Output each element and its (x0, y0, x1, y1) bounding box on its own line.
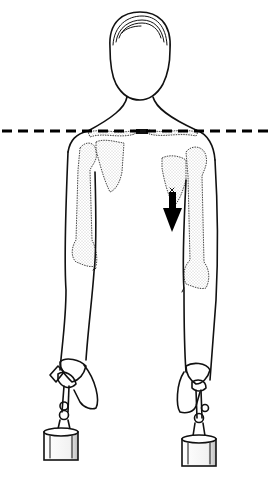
right-weight-assembly (182, 363, 216, 466)
left-shoulder-bones (72, 140, 124, 266)
right-weight (182, 435, 216, 466)
head (110, 12, 170, 100)
shoulder-depression-illustration (0, 0, 271, 477)
left-weight (44, 428, 78, 460)
left-weight-assembly (44, 359, 86, 460)
